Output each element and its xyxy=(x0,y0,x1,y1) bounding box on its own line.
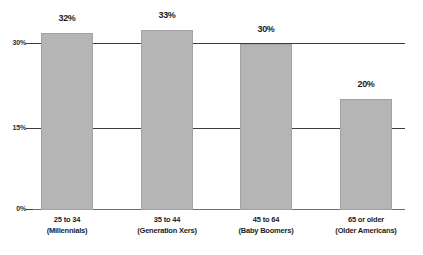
ytick-label-15: 15% xyxy=(2,124,26,132)
category-label-65-or-older: 65 or older (Older Americans) xyxy=(311,214,421,236)
ytick-label-30: 30% xyxy=(2,39,26,47)
bar-35-to-44[interactable] xyxy=(141,30,193,210)
bar-value-label: 33% xyxy=(141,10,193,20)
category-label-line2: (Older Americans) xyxy=(311,225,421,236)
ytick-0: 0% xyxy=(0,205,26,213)
category-label-line1: 45 to 64 xyxy=(211,214,321,225)
ytick-30: 30% xyxy=(0,39,26,47)
category-label-line2: (Baby Boomers) xyxy=(211,225,321,236)
tick-stub-15 xyxy=(26,128,33,129)
plot-area: 30% 15% 0% 32% 25 to 34 (Millennials) 33… xyxy=(0,0,423,255)
category-label-line1: 35 to 44 xyxy=(112,214,222,225)
category-label-line1: 65 or older xyxy=(311,214,421,225)
ytick-15: 15% xyxy=(0,124,26,132)
category-label-line2: (Generation Xers) xyxy=(112,225,222,236)
category-label-line1: 25 to 34 xyxy=(12,214,122,225)
bar-value-label: 30% xyxy=(240,24,292,34)
ytick-label-0: 0% xyxy=(2,205,26,213)
category-label-45-to-64: 45 to 64 (Baby Boomers) xyxy=(211,214,321,236)
category-label-25-to-34: 25 to 34 (Millennials) xyxy=(12,214,122,236)
bar-45-to-64[interactable] xyxy=(240,44,292,210)
bar-value-label: 20% xyxy=(340,79,392,89)
bar-chart: 30% 15% 0% 32% 25 to 34 (Millennials) 33… xyxy=(0,0,423,255)
bar-25-to-34[interactable] xyxy=(41,33,93,210)
category-label-line2: (Millennials) xyxy=(12,225,122,236)
tick-stub-0 xyxy=(26,209,33,210)
bar-65-or-older[interactable] xyxy=(340,99,392,210)
bar-value-label: 32% xyxy=(41,13,93,23)
tick-stub-30 xyxy=(26,43,33,44)
category-label-35-to-44: 35 to 44 (Generation Xers) xyxy=(112,214,222,236)
